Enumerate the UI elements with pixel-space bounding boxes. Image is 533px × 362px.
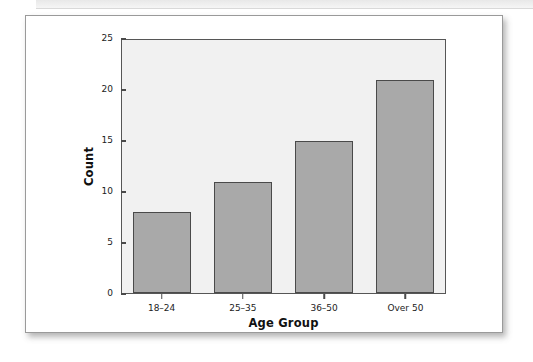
x-axis-tick-labels: 18–2425–3536–50Over 50 [121,301,446,317]
y-tick-label: 20 [102,83,113,96]
x-axis-tick [365,294,446,300]
x-tick-label: 25–35 [202,301,283,317]
y-tick-label: 15 [102,134,113,147]
y-tick-mark [121,140,126,142]
x-axis-ticks [121,294,446,300]
x-tick-label: 18–24 [121,301,202,317]
y-tick-mark [121,38,126,40]
y-tick-label: 5 [107,236,113,249]
scan-artifact-line [36,8,533,9]
y-tick-label: 10 [102,185,113,198]
bar-slot [122,40,203,293]
x-tick-mark [323,294,325,299]
x-axis-tick [284,294,365,300]
y-axis-title: Count [82,39,98,294]
x-tick-mark [405,294,407,299]
bar-chart: 0510152025 Count 18–2425–3536–50Over 50 … [26,16,504,334]
x-tick-label: 36–50 [284,301,365,317]
y-tick-mark [121,191,126,193]
bar[interactable] [376,80,434,293]
plot-area [121,39,446,294]
bar[interactable] [295,141,353,293]
y-tick-label: 0 [107,287,113,300]
x-tick-mark [161,294,163,299]
x-tick-mark [242,294,244,299]
bar-slot [284,40,365,293]
bar[interactable] [133,212,191,293]
x-axis-tick [121,294,202,300]
bar-series-count [122,40,445,293]
y-tick-mark [121,89,126,91]
bar-slot [364,40,445,293]
bar[interactable] [214,182,272,293]
y-tick-label: 25 [102,32,113,45]
figure-card: 0510152025 Count 18–2425–3536–50Over 50 … [25,15,503,333]
bar-slot [203,40,284,293]
x-axis-title: Age Group [121,316,446,330]
x-axis-tick [202,294,283,300]
y-tick-mark [121,242,126,244]
x-tick-label: Over 50 [365,301,446,317]
